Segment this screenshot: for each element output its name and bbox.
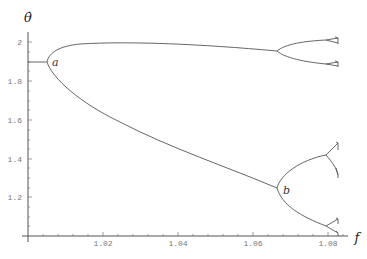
- bifurcation-diagram: 2 1.8 1.6 1.4 1.2 1.02 1.04 1.06 1.08 θ̇…: [0, 0, 367, 259]
- x-tick-label: 1.02: [93, 239, 112, 248]
- y-tick-label: 1.6: [8, 116, 23, 125]
- point-a-label: a: [52, 56, 59, 69]
- upper-branch-curve: [47, 43, 277, 62]
- y-tick-label: 1.2: [8, 193, 23, 202]
- x-axis-title: f: [354, 230, 362, 245]
- lower-upper-curve: [277, 143, 338, 188]
- y-tick-label: 1.4: [8, 155, 23, 164]
- x-tick-label: 1.06: [243, 239, 262, 248]
- lower-branch-curve: [47, 62, 277, 188]
- x-ticks: [43, 232, 343, 236]
- y-axis-title: θ̇: [24, 10, 32, 25]
- y-tick-label: 2: [17, 38, 22, 47]
- y-tick-label: 1.8: [8, 77, 23, 86]
- bifurcation-curves: [28, 37, 338, 236]
- upper-upper-curve: [277, 38, 338, 51]
- x-tick-label: 1.04: [168, 239, 187, 248]
- y-ticks: [28, 42, 32, 226]
- x-tick-label: 1.08: [318, 239, 337, 248]
- point-b-label: b: [283, 184, 290, 197]
